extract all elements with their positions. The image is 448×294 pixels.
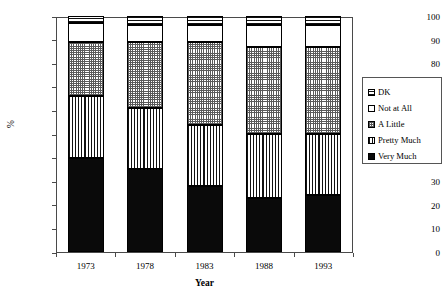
- legend-item-group: DKNot at AllA LittlePretty MuchVery Much: [368, 84, 441, 164]
- bar-segment-dk: [305, 16, 341, 25]
- bar-segment-dk: [246, 16, 282, 25]
- bar-segment-pretty-much: [127, 108, 163, 169]
- legend-swatch-icon: [368, 137, 375, 144]
- legend-item-dk[interactable]: DK: [368, 84, 441, 100]
- y-axis-title: %: [6, 120, 16, 128]
- y-tick-label: 0: [436, 249, 441, 258]
- x-tick-label: 1983: [175, 261, 235, 271]
- legend-swatch-icon: [368, 121, 375, 128]
- plot-area: [56, 17, 353, 253]
- legend-item-pretty-much[interactable]: Pretty Much: [368, 132, 441, 148]
- x-axis-title: Year: [0, 278, 409, 288]
- bar-segment-pretty-much: [246, 134, 282, 198]
- x-tick-mark: [115, 253, 116, 257]
- y-tick-label: 90: [431, 36, 440, 45]
- x-tick-label: 1988: [234, 261, 294, 271]
- stacked-bar-chart: % 0102030405060708090100 197319781983198…: [0, 0, 448, 294]
- bar-segment-not-at-all: [305, 25, 341, 46]
- bar-segment-not-at-all: [127, 25, 163, 42]
- legend-item-a-little[interactable]: A Little: [368, 116, 441, 132]
- x-tick-label: 1973: [56, 261, 116, 271]
- bar-segment-dk: [187, 16, 223, 25]
- bar-segment-pretty-much: [305, 134, 341, 195]
- y-tick-label: 20: [431, 201, 440, 210]
- x-tick-mark: [234, 253, 235, 257]
- bar-segment-pretty-much: [68, 96, 104, 157]
- bar-segment-a-little: [68, 42, 104, 96]
- x-tick-mark: [175, 253, 176, 257]
- x-tick-mark: [294, 253, 295, 257]
- legend-label: Pretty Much: [378, 136, 421, 145]
- legend-label: Very Much: [378, 152, 416, 161]
- bar-segment-very-much: [127, 169, 163, 252]
- legend-label: Not at All: [378, 104, 412, 113]
- bar-segment-very-much: [305, 195, 341, 252]
- bar-segment-not-at-all: [246, 25, 282, 46]
- y-tick-label: 80: [431, 60, 440, 69]
- bar-1973: [68, 16, 104, 252]
- bar-segment-a-little: [246, 47, 282, 134]
- bar-1983: [187, 16, 223, 252]
- legend-swatch-icon: [368, 89, 375, 96]
- y-tick-label: 10: [431, 225, 440, 234]
- y-tick-label: 30: [431, 178, 440, 187]
- bar-segment-very-much: [246, 198, 282, 252]
- legend: DKNot at AllA LittlePretty MuchVery Much: [362, 77, 442, 164]
- bar-1988: [246, 16, 282, 252]
- legend-swatch-icon: [368, 105, 375, 112]
- legend-swatch-icon: [368, 153, 375, 160]
- bar-1978: [127, 16, 163, 252]
- legend-item-very-much[interactable]: Very Much: [368, 148, 441, 164]
- y-tick-label: 100: [427, 13, 441, 22]
- bar-segment-a-little: [127, 42, 163, 108]
- bar-segment-not-at-all: [68, 23, 104, 42]
- bar-segment-a-little: [305, 47, 341, 134]
- legend-label: A Little: [378, 120, 405, 129]
- legend-label: DK: [378, 88, 390, 97]
- legend-item-not-at-all[interactable]: Not at All: [368, 100, 441, 116]
- bar-segment-pretty-much: [187, 125, 223, 186]
- bar-1993: [305, 16, 341, 252]
- bar-segment-very-much: [68, 158, 104, 252]
- bar-segment-dk: [127, 16, 163, 25]
- bar-segment-a-little: [187, 42, 223, 125]
- x-tick-mark: [56, 253, 57, 257]
- x-tick-label: 1978: [115, 261, 175, 271]
- x-tick-mark: [353, 253, 354, 257]
- y-axis: %: [0, 0, 56, 271]
- bar-segment-not-at-all: [187, 25, 223, 42]
- bar-segment-very-much: [187, 186, 223, 252]
- x-tick-label: 1993: [293, 261, 353, 271]
- bar-segment-dk: [68, 16, 104, 23]
